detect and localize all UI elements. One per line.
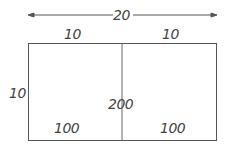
total-area-label: 200 xyxy=(108,97,133,111)
top-dimension-label: 20 xyxy=(113,8,130,22)
height-label: 10 xyxy=(9,86,26,100)
left-width-label: 10 xyxy=(64,27,81,41)
right-width-label: 10 xyxy=(162,27,179,41)
right-area-label: 100 xyxy=(160,121,185,135)
arrowhead-left-icon xyxy=(28,13,34,17)
left-area-label: 100 xyxy=(54,121,79,135)
arrowhead-right-icon xyxy=(211,13,217,17)
